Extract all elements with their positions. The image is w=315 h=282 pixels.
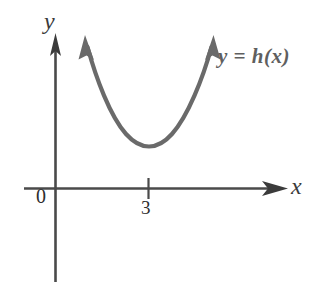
graph-canvas: [0, 0, 315, 282]
x-tick-label-3: 3: [141, 198, 151, 217]
curve-equation-label: y = h(x): [218, 46, 290, 67]
y-axis-label: y: [44, 9, 55, 33]
curve-h: [88, 47, 212, 147]
curve-left-arrowhead-icon: [79, 35, 95, 60]
origin-label: 0: [36, 186, 46, 206]
graph-figure: y x 0 3 y = h(x): [0, 0, 315, 282]
x-axis-label: x: [291, 174, 302, 198]
